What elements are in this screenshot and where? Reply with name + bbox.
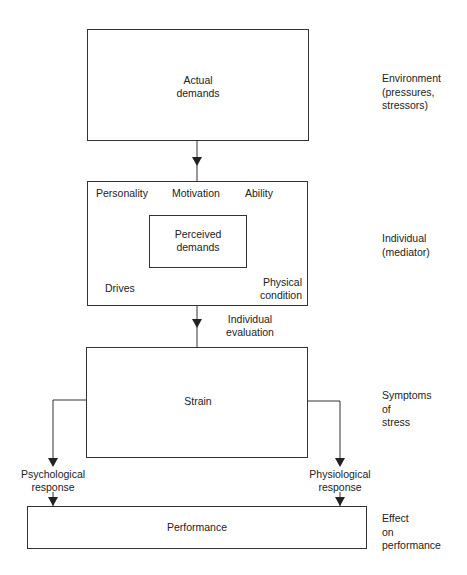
mediator-motivation: Motivation — [172, 187, 220, 200]
psychological-response-label: Psychological response — [13, 468, 93, 494]
mediator-physical-condition: Physical condition — [255, 276, 302, 302]
strain-label: Strain — [150, 395, 246, 408]
side-label-individual: Individual (mediator) — [382, 232, 430, 259]
mediator-personality: Personality — [96, 187, 148, 200]
side-label-symptoms: Symptoms of stress — [382, 389, 432, 430]
individual-evaluation-label: Individual evaluation — [220, 313, 280, 339]
side-label-effect: Effect on performance — [382, 512, 441, 553]
perceived-demands-label: Perceived demands — [149, 228, 247, 254]
mediator-drives: Drives — [105, 282, 135, 295]
actual-demands-label: Actual demands — [150, 74, 246, 100]
performance-label: Performance — [147, 521, 247, 534]
physiological-response-label: Physiological response — [300, 468, 380, 494]
mediator-ability: Ability — [245, 187, 273, 200]
side-label-environment: Environment (pressures, stressors) — [382, 72, 441, 113]
